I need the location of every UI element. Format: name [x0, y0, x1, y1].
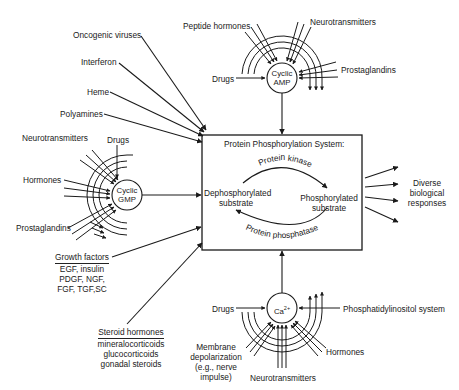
- growth-factor-item: EGF, insulin: [52, 264, 112, 274]
- cyclic-amp-label: Cyclic AMP: [268, 69, 296, 87]
- membrane-depolarization-label: Membrane depolarization (e.g., nerve imp…: [188, 342, 244, 382]
- polyamines-label: Polyamines: [60, 109, 103, 119]
- phospho-line-1: Phosphorylated: [298, 193, 360, 203]
- growth-factors-group: Growth factors EGF, insulin PDGF, NGF, F…: [52, 252, 112, 294]
- dephospho-line-1: Dephosphorylated: [204, 188, 268, 198]
- cyclic-gmp-line-2: GMP: [113, 195, 141, 204]
- growth-factor-item: PDGF, NGF,: [52, 274, 112, 284]
- dephosphorylated-substrate-label: Dephosphorylated substrate: [204, 188, 268, 208]
- membrane-line-3: (e.g., nerve: [188, 362, 244, 372]
- output-arrows: [365, 167, 398, 222]
- steroid-hormones-arrow: [127, 243, 202, 324]
- gmp-drugs-label: Drugs: [107, 135, 129, 145]
- diagram-canvas: Protein kinase Protein phosphatase Prote…: [0, 0, 459, 390]
- ca-phosphatidylinositol-label: Phosphatidylinositol system: [343, 304, 445, 314]
- membrane-line-4: impulse): [188, 372, 244, 382]
- amp-drugs-label: Drugs: [212, 74, 234, 84]
- amp-peptide-hormones-label: Peptide hormones: [183, 21, 250, 31]
- ca-drugs-label: Drugs: [212, 304, 234, 314]
- membrane-line-2: depolarization: [188, 352, 244, 362]
- amp-neurotransmitters-label: Neurotransmitters: [310, 17, 376, 27]
- oncogenic-viruses-label: Oncogenic viruses: [73, 30, 141, 40]
- direct-input-arrows: [104, 36, 206, 142]
- responses-line-1: Diverse: [402, 178, 452, 188]
- steroid-item: glucocorticoids: [95, 349, 167, 359]
- responses-line-2: biological: [402, 188, 452, 198]
- interferon-label: Interferon: [81, 57, 117, 67]
- protein-kinase-label: Protein kinase: [257, 152, 315, 169]
- growth-factor-item: FGF, TGF,SC: [52, 284, 112, 294]
- cyclic-amp-line-2: AMP: [268, 78, 296, 87]
- gmp-neurotransmitters-label: Neurotransmitters: [22, 133, 88, 143]
- ca-hormones-label: Hormones: [326, 347, 364, 357]
- calcium-charge: 2+: [284, 305, 290, 311]
- cyclic-amp-line-1: Cyclic: [268, 69, 296, 78]
- membrane-line-1: Membrane: [188, 342, 244, 352]
- diverse-responses-label: Diverse biological responses: [402, 178, 452, 208]
- calcium-label: Ca2+: [270, 303, 294, 317]
- growth-factors-heading: Growth factors: [55, 252, 109, 264]
- dephospho-line-2: substrate: [204, 198, 268, 208]
- phospho-line-2: substrate: [298, 203, 360, 213]
- amp-prostaglandins-label: Prostaglandins: [341, 65, 396, 75]
- phosphorylated-substrate-label: Phosphorylated substrate: [298, 193, 360, 213]
- heme-label: Heme: [87, 87, 109, 97]
- calcium-symbol: Ca: [274, 307, 284, 316]
- steroid-hormones-group: Steroid hormones mineralocorticoids gluc…: [95, 327, 167, 369]
- responses-line-3: responses: [402, 198, 452, 208]
- growth-factors-arrow: [112, 227, 201, 257]
- gmp-prostaglandins-label: Prostaglandins: [16, 223, 71, 233]
- ca-neurotransmitters-label: Neurotransmitters: [250, 373, 316, 383]
- steroid-item: mineralocorticoids: [95, 339, 167, 349]
- cyclic-gmp-label: Cyclic GMP: [113, 186, 141, 204]
- gmp-hormones-label: Hormones: [23, 175, 61, 185]
- box-title: Protein Phosphorylation System:: [224, 139, 344, 149]
- steroid-item: gonadal steroids: [95, 359, 167, 369]
- cyclic-gmp-line-1: Cyclic: [113, 186, 141, 195]
- kinase-arrow: [243, 168, 327, 188]
- steroid-hormones-heading: Steroid hormones: [98, 327, 164, 339]
